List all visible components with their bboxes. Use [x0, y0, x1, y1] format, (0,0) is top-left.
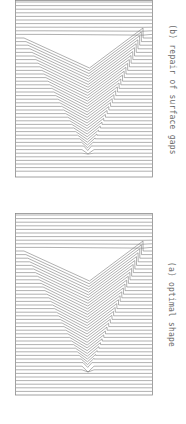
surface-plot-b — [14, 0, 154, 178]
panel-b-figure — [14, 0, 154, 178]
surface-plot-a — [14, 213, 154, 396]
panel-a-figure — [14, 213, 154, 396]
caption-a: (a) optimal shape — [162, 213, 182, 396]
caption-b: (b) repair of surface gaps — [162, 0, 182, 178]
caption-b-text: (b) repair of surface gaps — [168, 24, 177, 154]
caption-a-text: (a) optimal shape — [168, 262, 177, 347]
